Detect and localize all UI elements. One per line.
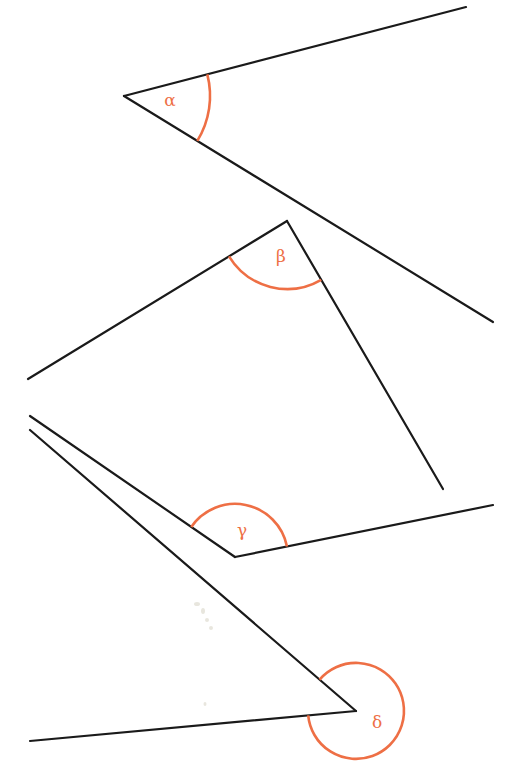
arc-alpha xyxy=(197,74,210,141)
ray-alpha-upper xyxy=(124,7,466,96)
label-gamma: γ xyxy=(237,520,247,540)
angle-delta: δ xyxy=(30,430,404,759)
angles-diagram: α β γ δ xyxy=(0,0,510,784)
angle-beta: β xyxy=(28,221,443,489)
ray-alpha-lower xyxy=(124,96,493,322)
label-beta: β xyxy=(276,246,286,266)
ray-delta-lower xyxy=(30,711,356,741)
label-delta: δ xyxy=(372,712,382,732)
ray-gamma-left xyxy=(30,416,235,557)
angle-gamma: γ xyxy=(30,416,493,557)
smudge-marks xyxy=(194,602,213,706)
angle-alpha: α xyxy=(124,7,493,322)
ray-delta-upper xyxy=(30,430,356,711)
ray-gamma-right xyxy=(235,505,493,557)
label-alpha: α xyxy=(164,90,176,110)
ray-beta-left xyxy=(28,221,287,379)
ray-beta-right xyxy=(287,221,443,489)
